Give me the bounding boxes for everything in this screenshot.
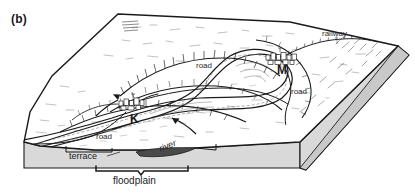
settlement-m-label: M	[277, 64, 287, 76]
settlement-k-label: K	[130, 113, 139, 125]
railway-label: railway	[322, 30, 347, 38]
road-label-west: road	[96, 133, 112, 141]
figure-panel-b: (b) K M railway road road road terrace r…	[0, 0, 415, 196]
road-label-east: road	[291, 88, 307, 96]
road-label-north: road	[196, 62, 212, 70]
floodplain-label: floodplain	[113, 176, 156, 186]
terrace-label: terrace	[69, 152, 97, 161]
block-diagram-illustration	[0, 0, 415, 196]
panel-letter-label: (b)	[11, 13, 27, 25]
